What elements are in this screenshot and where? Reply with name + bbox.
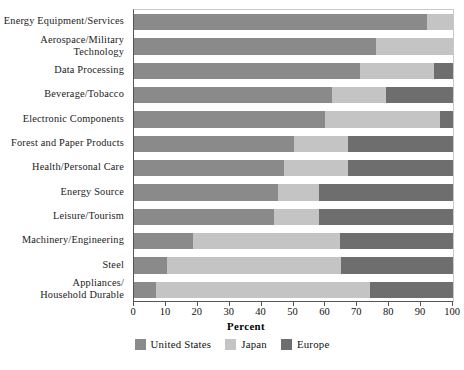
category-label: Forest and Paper Products	[0, 137, 124, 149]
x-axis-tick-label: 40	[255, 306, 266, 317]
bar-segment-europe	[341, 257, 453, 274]
bar-segment-japan	[284, 160, 348, 177]
x-axis-tick-label: 90	[415, 306, 426, 317]
bar-segment-united-states	[134, 63, 360, 80]
bar-segment-united-states	[134, 233, 193, 250]
category-label: Appliances/Household Durable	[0, 277, 124, 300]
bar-row	[134, 233, 453, 250]
bar-row	[134, 63, 453, 80]
category-label-line: Health/Personal Care	[0, 161, 124, 173]
category-label-line: Leisure/Tourism	[0, 210, 124, 222]
bar-segment-united-states	[134, 136, 294, 153]
x-axis-tick-label: 30	[223, 306, 234, 317]
legend-swatch-icon	[135, 339, 146, 350]
category-label: Data Processing	[0, 64, 124, 76]
bar-row	[134, 38, 453, 55]
bar-segment-united-states	[134, 257, 167, 274]
bar-segment-japan	[278, 184, 319, 201]
bar-segment-europe	[319, 209, 453, 226]
category-label-line: Technology	[0, 46, 124, 58]
legend-label: Europe	[297, 338, 329, 350]
bar-segment-united-states	[134, 160, 284, 177]
bar-segment-europe	[370, 282, 453, 299]
bar-segment-japan	[156, 282, 370, 299]
bar-segment-united-states	[134, 282, 156, 299]
category-label-line: Data Processing	[0, 64, 124, 76]
category-label-line: Household Durable	[0, 289, 124, 301]
category-label-line: Forest and Paper Products	[0, 137, 124, 149]
category-label-line: Energy Source	[0, 186, 124, 198]
bar-row	[134, 184, 453, 201]
bar-segment-united-states	[134, 209, 274, 226]
category-label-line: Electronic Components	[0, 113, 124, 125]
x-axis-title-text: Percent	[227, 320, 265, 332]
bar-row	[134, 257, 453, 274]
bar-segment-japan	[325, 111, 440, 128]
bar-row	[134, 209, 453, 226]
category-label: Leisure/Tourism	[0, 210, 124, 222]
bar-segment-united-states	[134, 87, 332, 104]
bar-segment-europe	[434, 63, 453, 80]
bar-row	[134, 111, 453, 128]
bar-segment-japan	[274, 209, 319, 226]
bar-segment-japan	[427, 14, 453, 31]
bar-segment-japan	[193, 233, 340, 250]
category-label: Aerospace/MilitaryTechnology	[0, 34, 124, 57]
category-label: Health/Personal Care	[0, 161, 124, 173]
bar-row	[134, 87, 453, 104]
legend-label: United States	[151, 338, 212, 350]
bar-row	[134, 282, 453, 299]
legend-item[interactable]: Europe	[281, 338, 329, 350]
category-label-line: Machinery/Engineering	[0, 234, 124, 246]
x-axis-tick-label: 60	[319, 306, 330, 317]
bar-segment-united-states	[134, 14, 427, 31]
legend-item[interactable]: United States	[135, 338, 212, 350]
legend-swatch-icon	[281, 339, 292, 350]
bar-row	[134, 160, 453, 177]
bars-layer	[134, 10, 453, 302]
bar-segment-japan	[332, 87, 386, 104]
legend-swatch-icon	[225, 339, 236, 350]
bar-segment-europe	[348, 160, 453, 177]
category-label: Beverage/Tobacco	[0, 88, 124, 100]
x-axis-tick-label: 70	[351, 306, 362, 317]
bar-row	[134, 136, 453, 153]
bar-segment-europe	[348, 136, 453, 153]
x-axis-tick-label: 100	[444, 306, 460, 317]
x-axis-tick-label: 20	[192, 306, 203, 317]
x-axis-tick-label: 80	[383, 306, 394, 317]
x-axis-tick-label: 10	[160, 306, 171, 317]
category-label: Machinery/Engineering	[0, 234, 124, 246]
bar-segment-united-states	[134, 184, 278, 201]
category-label-line: Energy Equipment/Services	[0, 15, 124, 27]
bar-segment-europe	[440, 111, 453, 128]
legend-item[interactable]: Japan	[225, 338, 267, 350]
category-label: Energy Source	[0, 186, 124, 198]
bar-segment-united-states	[134, 111, 325, 128]
legend-label: Japan	[241, 338, 267, 350]
category-label-line: Steel	[0, 259, 124, 271]
category-label: Energy Equipment/Services	[0, 15, 124, 27]
plot-area	[133, 9, 454, 302]
category-label-line: Aerospace/Military	[0, 34, 124, 46]
bar-row	[134, 14, 453, 31]
bar-segment-japan	[376, 38, 453, 55]
category-label-line: Beverage/Tobacco	[0, 88, 124, 100]
stacked-bar-chart: Energy Equipment/ServicesAerospace/Milit…	[0, 0, 464, 370]
category-label: Electronic Components	[0, 113, 124, 125]
category-label-line: Appliances/	[0, 277, 124, 289]
category-label: Steel	[0, 259, 124, 271]
bar-segment-united-states	[134, 38, 376, 55]
bar-segment-europe	[340, 233, 453, 250]
x-axis-tick-label: 0	[130, 306, 135, 317]
x-axis-title: Percent	[0, 320, 464, 332]
x-axis-tick-label: 50	[287, 306, 298, 317]
category-axis-labels: Energy Equipment/ServicesAerospace/Milit…	[0, 10, 128, 300]
bar-segment-japan	[294, 136, 348, 153]
bar-segment-japan	[360, 63, 433, 80]
chart-legend: United StatesJapanEurope	[0, 338, 464, 350]
bar-segment-europe	[319, 184, 453, 201]
bar-segment-japan	[167, 257, 341, 274]
bar-segment-europe	[386, 87, 453, 104]
